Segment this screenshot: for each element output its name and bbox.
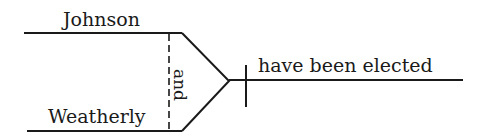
subject-branch-bottom: Weatherly bbox=[27, 105, 182, 131]
conjunction-and: and bbox=[170, 69, 190, 101]
subject-johnson: Johnson bbox=[61, 8, 140, 30]
predicate-text: have been elected bbox=[258, 54, 433, 76]
sentence-diagram: Johnson Weatherly and have been elected bbox=[0, 0, 484, 139]
subject-branch-top: Johnson bbox=[24, 8, 182, 33]
subject-weatherly: Weatherly bbox=[48, 105, 146, 127]
